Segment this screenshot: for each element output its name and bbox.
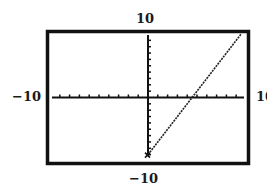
axes xyxy=(52,35,244,156)
function-plot xyxy=(148,34,241,155)
graph-screen xyxy=(0,0,267,193)
